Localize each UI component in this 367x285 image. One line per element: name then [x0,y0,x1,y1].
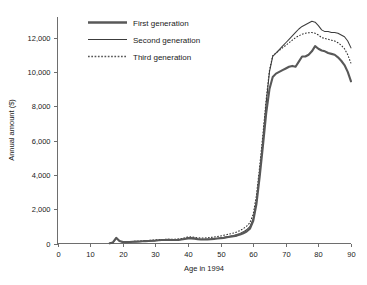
x-axis-title: Age in 1994 [184,264,224,273]
x-tick-label: 90 [347,250,355,259]
x-tick-label: 50 [217,250,225,259]
x-tick-label: 40 [184,250,192,259]
y-tick-label: 2,000 [32,205,51,214]
y-tick-label: 6,000 [32,137,51,146]
chart-screenshot: 02,0004,0006,0008,00010,00012,000 Annual… [0,0,367,285]
legend-label-second-generation: Second generation [133,36,200,45]
y-tick-label: 12,000 [28,34,51,43]
x-tick-label: 80 [314,250,322,259]
y-tick-label: 10,000 [28,68,51,77]
x-tick-label: 70 [282,250,290,259]
x-tick-label: 60 [249,250,257,259]
x-tick-label: 10 [86,250,94,259]
legend-label-third-generation: Third generation [133,53,191,62]
y-axis-title: Annual amount ($) [7,99,16,161]
line-chart: 02,0004,0006,0008,00010,00012,000 Annual… [0,0,367,285]
x-tick-label: 30 [151,250,159,259]
y-tick-label: 4,000 [32,171,51,180]
x-tick-label: 0 [56,250,60,259]
y-tick-label: 8,000 [32,102,51,111]
x-tick-label: 20 [119,250,127,259]
legend-label-first-generation: First generation [133,19,189,28]
y-tick-label: 0 [46,240,50,249]
